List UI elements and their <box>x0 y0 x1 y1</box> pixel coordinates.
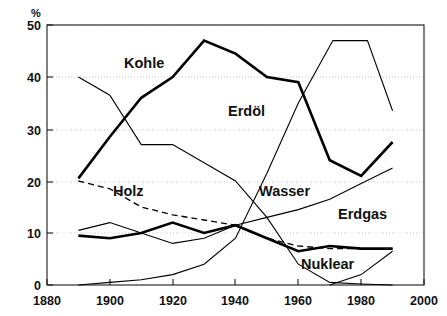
series-label-holz: Holz <box>113 183 144 199</box>
series-label-nuklear: Nuklear <box>301 256 355 272</box>
series-label-erdoel: Erdöl <box>228 103 265 119</box>
x-tick-label-1940: 1940 <box>221 294 249 308</box>
x-tick-label-1920: 1920 <box>159 294 187 308</box>
y-tick-label-20: 20 <box>27 176 41 190</box>
x-tick-label-1960: 1960 <box>284 294 312 308</box>
series-label-wasser: Wasser <box>259 183 310 199</box>
y-tick-label-40: 40 <box>27 71 41 85</box>
y-tick-label-10: 10 <box>27 227 41 241</box>
y-tick-label-50: 50 <box>27 19 41 33</box>
y-tick-label-0: 0 <box>34 279 41 293</box>
y-tick-label-30: 30 <box>27 124 41 138</box>
x-tick-label-1900: 1900 <box>96 294 124 308</box>
series-label-kohle: Kohle <box>124 55 164 71</box>
x-tick-label-1980: 1980 <box>347 294 375 308</box>
x-tick-label-2000: 2000 <box>410 294 438 308</box>
series-label-erdgas: Erdgas <box>338 206 387 222</box>
line-chart-svg: % 50 40 30 20 10 0 1880 1900 1920 1940 1… <box>0 0 447 316</box>
y-axis-unit-label: % <box>31 7 41 19</box>
x-tick-label-1880: 1880 <box>33 294 61 308</box>
chart-figure: % 50 40 30 20 10 0 1880 1900 1920 1940 1… <box>0 0 447 316</box>
